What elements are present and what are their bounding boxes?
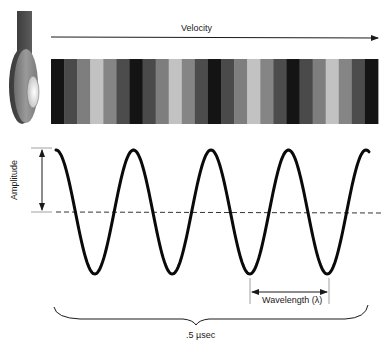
stripe xyxy=(247,59,260,124)
compression-stripe-bar xyxy=(51,59,378,124)
stripe xyxy=(208,59,221,124)
stripe xyxy=(352,59,365,124)
stripe xyxy=(169,59,182,124)
stripe xyxy=(195,59,208,124)
stripe xyxy=(365,59,378,124)
stripe xyxy=(326,59,339,124)
stripe xyxy=(339,59,352,124)
stripe xyxy=(51,59,64,124)
amplitude-label: Amplitude xyxy=(10,160,19,200)
stripe xyxy=(313,59,326,124)
velocity-label: Velocity xyxy=(181,24,212,33)
stripe xyxy=(260,59,273,124)
stripe xyxy=(77,59,90,124)
stripe xyxy=(129,59,142,124)
duration-brace xyxy=(54,305,368,325)
diagram-graphics xyxy=(0,0,385,349)
stripe xyxy=(221,59,234,124)
duration-label: .5 µsec xyxy=(186,331,215,340)
velocity-arrow xyxy=(51,37,378,38)
stripe xyxy=(156,59,169,124)
stripe xyxy=(234,59,247,124)
baseline-dashed xyxy=(56,212,381,213)
ultrasonic-transducer-icon xyxy=(9,11,39,124)
stripe xyxy=(116,59,129,124)
stripe xyxy=(90,59,103,124)
stripe xyxy=(300,59,313,124)
amplitude-indicator xyxy=(31,148,52,212)
stripe xyxy=(143,59,156,124)
wavelength-label: Wavelength (λ) xyxy=(262,296,322,305)
stripe xyxy=(64,59,77,124)
wave-diagram: Velocity Amplitude Wavelength (λ) .5 µse… xyxy=(0,0,385,349)
stripe xyxy=(286,59,299,124)
stripe xyxy=(182,59,195,124)
stripe xyxy=(273,59,286,124)
stripe xyxy=(103,59,116,124)
